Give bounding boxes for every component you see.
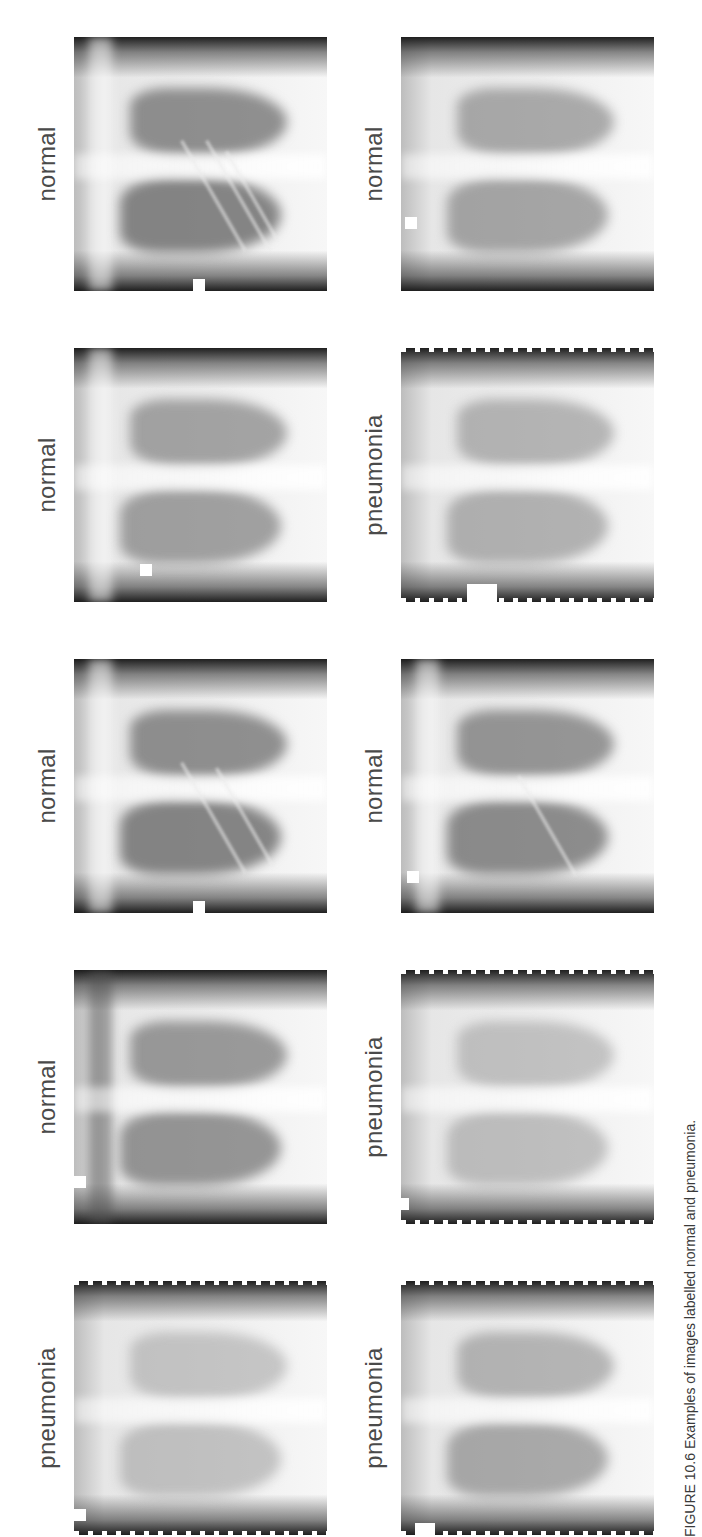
- chest-xray-image: [74, 37, 327, 291]
- image-label: normal: [359, 659, 389, 913]
- image-label: pneumonia: [32, 1281, 62, 1535]
- image-label: normal: [32, 659, 62, 913]
- chest-xray-image: [401, 1281, 654, 1535]
- image-label: normal: [359, 37, 389, 291]
- chest-xray-image: [74, 348, 327, 602]
- image-label: normal: [32, 348, 62, 602]
- chest-xray-image: [74, 1281, 327, 1535]
- chest-xray-image: [401, 348, 654, 602]
- chest-xray-image: [74, 970, 327, 1224]
- image-label: pneumonia: [359, 970, 389, 1224]
- figure-caption: FIGURE 10.6 Examples of images labelled …: [682, 937, 702, 1537]
- image-label: normal: [32, 970, 62, 1224]
- image-label: pneumonia: [359, 348, 389, 602]
- chest-xray-image: [401, 970, 654, 1224]
- chest-xray-image: [401, 659, 654, 913]
- image-label: normal: [32, 37, 62, 291]
- image-label: pneumonia: [359, 1281, 389, 1535]
- chest-xray-image: [74, 659, 327, 913]
- chest-xray-image: [401, 37, 654, 291]
